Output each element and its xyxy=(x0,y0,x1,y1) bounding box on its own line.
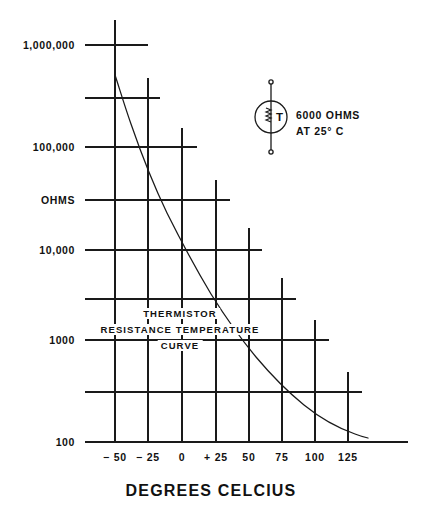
x-axis-tick-label: + 25 xyxy=(204,451,228,463)
x-axis-tick-label: − 25 xyxy=(136,451,160,463)
y-axis-tick-label: 100,000 xyxy=(0,141,75,153)
grid-horizontal-lines xyxy=(85,45,408,442)
y-axis-tick-label: 1000 xyxy=(0,334,75,346)
x-axis-tick-label: 50 xyxy=(242,451,255,463)
chart-annotation-line: CURVE xyxy=(158,340,203,351)
x-axis-tick-label: 75 xyxy=(275,451,288,463)
y-axis-tick-label: 1,000,000 xyxy=(0,39,75,51)
legend-reference-temperature: AT 25° C xyxy=(296,125,344,137)
x-axis-title: DEGREES CELCIUS xyxy=(126,482,297,500)
x-axis-tick-label: 0 xyxy=(179,451,186,463)
x-axis-tick-label: 125 xyxy=(338,451,358,463)
y-axis-tick-label: 100 xyxy=(0,436,75,448)
chart-annotation-line: RESISTANCE TEMPERATURE xyxy=(98,324,263,335)
x-axis-tick-label: − 50 xyxy=(103,451,127,463)
thermistor-symbol-letter: T xyxy=(276,111,283,123)
grid-vertical-lines xyxy=(115,20,348,442)
chart-annotation-line: THERMISTOR xyxy=(140,308,220,319)
x-axis-tick-label: 100 xyxy=(305,451,325,463)
thermistor-curve-figure: T 1,000,000100,00010,0001000100 OHMS − 5… xyxy=(0,0,422,520)
legend-resistance-value: 6000 OHMS xyxy=(296,109,360,121)
y-axis-tick-label: 10,000 xyxy=(0,244,75,256)
y-axis-title: OHMS xyxy=(0,194,75,206)
